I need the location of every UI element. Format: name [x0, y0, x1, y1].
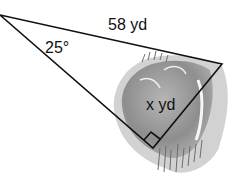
angle-label: 25°: [45, 39, 69, 56]
triangle-diagram: 58 yd 25° x yd: [0, 0, 236, 188]
hypotenuse-label: 58 yd: [108, 16, 147, 33]
side-label: x yd: [146, 96, 175, 113]
